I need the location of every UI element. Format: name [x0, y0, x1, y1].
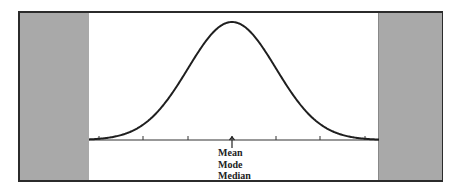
label-mean: Mean: [218, 147, 251, 159]
center-labels: Mean Mode Median: [218, 147, 251, 182]
normal-curve: [89, 22, 379, 140]
label-median: Median: [218, 170, 251, 182]
label-mode: Mode: [218, 159, 251, 171]
